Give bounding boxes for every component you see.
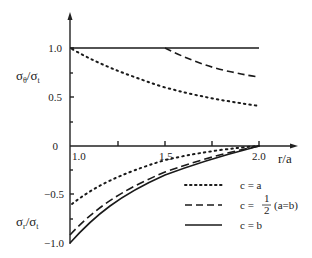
x-tick-label-2-0: 2.0 (252, 150, 266, 162)
y-tick-label-neg-1-0: −1.0 (44, 237, 64, 249)
y-axis-arrow-icon (68, 12, 73, 20)
legend: c = a c = 1 2 (a=b) c = b (185, 179, 298, 231)
y-tick-label-0: 0 (53, 140, 59, 152)
y-tick-label-neg-0-5: −0.5 (44, 188, 64, 200)
y-tick-label-0-5: 0.5 (48, 91, 62, 103)
stress-chart: 1.0 0.5 0 −0.5 −1.0 1.0 1.5 2.0 r/a σθ/σ… (0, 0, 312, 258)
legend-label-c-b: c = b (240, 219, 263, 231)
legend-label-c-half-suffix: (a=b) (274, 199, 298, 212)
x-axis-arrow-icon (290, 144, 298, 149)
legend-label-c-a: c = a (240, 179, 262, 191)
sigma-theta-c-half-line (165, 48, 259, 77)
y-axis-label-upper: σθ/σt (16, 68, 40, 85)
x-tick-label-1-0: 1.0 (72, 150, 86, 162)
y-tick-label-1-0: 1.0 (48, 42, 62, 54)
legend-label-c-half-prefix: c = (240, 199, 254, 211)
x-ticks (118, 141, 259, 146)
x-axis-label: r/a (278, 151, 292, 166)
legend-label-c-half-num: 1 (264, 192, 270, 204)
sigma-theta-c-a-line (72, 49, 259, 106)
y-axis-label-lower: σr/σt (16, 214, 39, 231)
legend-label-c-half-den: 2 (264, 204, 270, 216)
